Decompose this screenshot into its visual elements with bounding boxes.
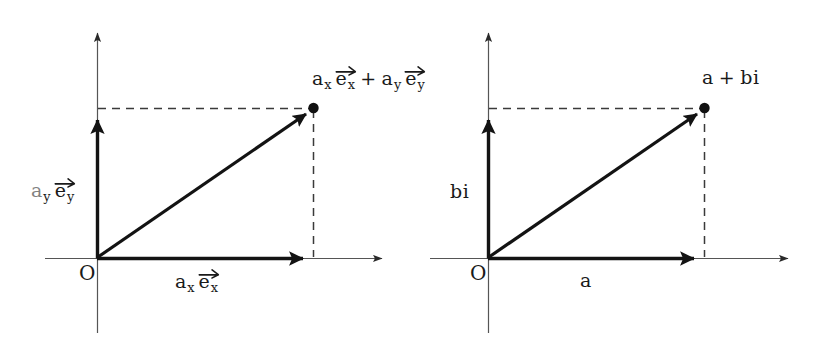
complex-real-part: a [702, 66, 714, 88]
tip-term1-basis-vector: ex [336, 68, 356, 92]
tip-plus-operator: + [360, 67, 376, 89]
resultant-vector [489, 114, 697, 257]
resultant-vector [98, 114, 306, 257]
x-component-coefficient-subscript: x [187, 280, 194, 295]
x-basis-subscript: x [211, 280, 218, 295]
complex-imaginary-part: bi [740, 66, 759, 88]
y-basis-symbol: e [55, 179, 67, 201]
tip-term1-coefficient: a [312, 67, 324, 89]
y-basis-vector: ey [55, 180, 75, 204]
y-component-coefficient-subscript: y [43, 189, 50, 204]
y-basis-subscript: y [67, 189, 74, 204]
complex-tip-label: a+bi [702, 68, 760, 87]
tip-term2-basis-symbol: e [405, 67, 417, 89]
tip-term1-basis-symbol: e [336, 67, 348, 89]
imaginary-axis-label: bi [450, 182, 469, 201]
origin-label-right: O [470, 263, 486, 283]
tip-term1-basis-subscript: x [348, 77, 355, 92]
complex-plus-operator: + [719, 66, 735, 88]
tip-term1-coefficient-subscript: x [324, 77, 331, 92]
complex-tip-point [699, 103, 709, 113]
x-component-coefficient: a [175, 270, 187, 292]
y-component-label-left: ayey [31, 180, 74, 204]
tip-term2-basis-subscript: y [417, 77, 424, 92]
origin-label-left: O [79, 263, 95, 283]
tip-term2-basis-vector: ey [405, 68, 425, 92]
x-basis-symbol: e [199, 270, 211, 292]
real-axis-label: a [580, 271, 592, 290]
x-basis-vector: ex [199, 271, 219, 295]
vector-tip-label: axex+ayey [312, 68, 425, 92]
x-component-label-left: axex [175, 271, 218, 295]
tip-term2-coefficient-subscript: y [394, 77, 401, 92]
figure-canvas: O ayey axex axex+ayey O bi a a+bi [0, 0, 815, 358]
y-component-coefficient: a [31, 179, 43, 201]
vector-tip-point [308, 103, 318, 113]
tip-term2-coefficient: a [382, 67, 394, 89]
